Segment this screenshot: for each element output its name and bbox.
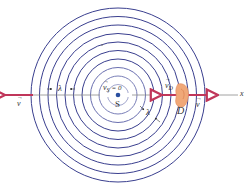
detector-label: D (177, 106, 184, 116)
wave-velocity-label-right: v (196, 101, 200, 109)
wave-velocity-label-left: v (17, 100, 21, 108)
source-velocity-label: vS = 0 (103, 84, 122, 93)
diagram-canvas (0, 0, 251, 188)
x-axis-label: x (240, 90, 244, 98)
source-label: S (115, 100, 120, 109)
detector-ear-icon (176, 84, 189, 107)
source-dot (116, 93, 121, 98)
doppler-diagram: v λ vS = 0 S λ vD D v x (0, 0, 251, 188)
wavelength-marker-diag (140, 106, 160, 122)
wavelength-label-left: λ (58, 84, 62, 93)
wavelength-label-diag: λ (146, 108, 150, 117)
detector-velocity-label: vD (165, 82, 173, 91)
